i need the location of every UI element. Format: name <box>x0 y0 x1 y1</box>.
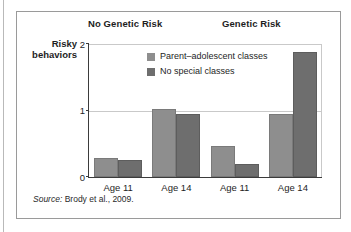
group-header-row: No Genetic Risk Genetic Risk <box>16 18 341 34</box>
legend-item-no-special-classes: No special classes <box>147 65 268 78</box>
x-tick-label: Age 11 <box>220 182 249 193</box>
y-tick-label-0: 0 <box>80 172 85 182</box>
y-tick-label-1: 1 <box>80 106 85 116</box>
x-tick-label: Age 14 <box>278 182 308 193</box>
bar <box>152 109 176 178</box>
bar <box>269 114 293 177</box>
x-tick-label: Age 11 <box>103 182 132 193</box>
chart-legend: Parent–adolescent classes No special cla… <box>147 50 268 80</box>
page-edge-rule <box>3 0 4 232</box>
legend-swatch-icon-series-0 <box>147 53 155 61</box>
source-note-label: Source: <box>33 194 62 204</box>
bar <box>118 160 142 177</box>
group-header-no-genetic-risk: No Genetic Risk <box>88 18 162 29</box>
source-note-text: Brody et al., 2009. <box>62 194 133 204</box>
source-note: Source: Brody et al., 2009. <box>33 194 134 204</box>
bar-group: Age 14 <box>264 44 322 177</box>
bar <box>94 158 118 177</box>
group-header-genetic-risk: Genetic Risk <box>222 18 281 29</box>
bar <box>211 146 235 177</box>
x-tick-label: Age 14 <box>161 182 191 193</box>
y-axis-title: Risky behaviors <box>22 38 77 60</box>
legend-label-series-0: Parent–adolescent classes <box>160 52 268 61</box>
bar <box>176 114 200 177</box>
bar <box>235 164 259 177</box>
plot-area: 012 Age 11Age 14Age 11Age 14 Parent–adol… <box>88 44 322 178</box>
legend-item-parent-adolescent-classes: Parent–adolescent classes <box>147 50 268 63</box>
legend-swatch-icon-series-1 <box>147 68 155 76</box>
y-tick-label-2: 2 <box>80 39 85 49</box>
y-axis-title-line-1: Risky <box>22 38 77 49</box>
bar <box>293 52 317 177</box>
y-axis-title-line-2: behaviors <box>22 49 77 60</box>
bar-group: Age 11 <box>89 44 147 177</box>
legend-label-series-1: No special classes <box>160 67 235 76</box>
